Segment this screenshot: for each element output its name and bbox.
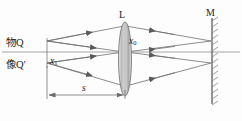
x1-subscript: 1	[54, 59, 57, 66]
plane-mirror	[212, 17, 218, 105]
object-point-label: 物Q	[6, 38, 24, 49]
distance-s-label: s	[82, 84, 86, 94]
object-point-text: 物Q	[6, 37, 24, 48]
biconvex-lens	[119, 22, 132, 96]
incident-ray-arrowheads	[47, 32, 96, 75]
x1-label: x1	[50, 57, 57, 67]
returning-ray-arrowheads	[155, 31, 175, 78]
returning-rays-group	[126, 26, 211, 86]
x0-label: x0	[129, 37, 136, 47]
x0-subscript: 0	[133, 39, 136, 46]
lens-label: L	[119, 10, 125, 20]
lens-label-text: L	[119, 9, 125, 20]
distance-s-text: s	[82, 83, 86, 93]
mirror-hatching	[212, 17, 218, 105]
mirror-label-text: M	[206, 7, 215, 18]
optics-ray-diagram: 物Q 像Q′ x1 L x0 M s	[0, 0, 242, 121]
incident-rays-group	[47, 26, 124, 86]
image-point-text: 像Q′	[6, 59, 26, 70]
mirror-label: M	[206, 8, 215, 18]
image-point-label: 像Q′	[6, 60, 26, 71]
